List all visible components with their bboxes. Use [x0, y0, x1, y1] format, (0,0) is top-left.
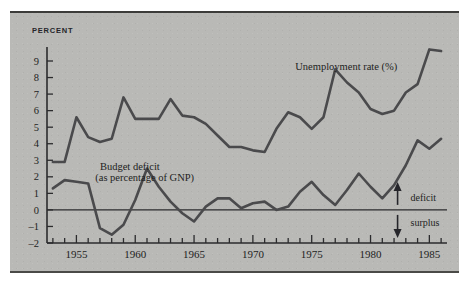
chart-plate: –2–10123456789 1955196019651970197519801… — [10, 11, 459, 273]
x-tick-label-1985: 1985 — [418, 248, 441, 260]
x-tick-label-1960: 1960 — [124, 248, 147, 260]
legend-label-surplus: surplus — [411, 217, 440, 228]
data-series-group — [53, 49, 441, 234]
y-tick-label-9: 9 — [34, 56, 39, 67]
annotation-budget-deficit-line2: (as percentage of GNP) — [95, 172, 194, 185]
y-tick-label-8: 8 — [34, 72, 39, 83]
y-axis-tick-labels: –2–10123456789 — [28, 56, 40, 249]
y-tick-label-4: 4 — [34, 138, 40, 149]
y-tick-label-6: 6 — [34, 105, 39, 116]
x-tick-label-1975: 1975 — [301, 248, 324, 260]
y-tick-label-3: 3 — [34, 155, 39, 166]
legend-label-deficit: deficit — [411, 192, 437, 203]
x-axis-tick-labels: 1955196019651970197519801985 — [65, 248, 440, 260]
surplus-down-arrow — [394, 215, 402, 238]
line-chart-plot: –2–10123456789 1955196019651970197519801… — [10, 11, 459, 273]
x-tick-label-1970: 1970 — [242, 248, 265, 260]
annotation-unemployment-rate: Unemployment rate (%) — [295, 61, 397, 74]
axes-group — [47, 47, 447, 243]
figure-container: –2–10123456789 1955196019651970197519801… — [0, 0, 469, 293]
y-tick-label-7: 7 — [34, 89, 39, 100]
x-tick-label-1965: 1965 — [183, 248, 206, 260]
y-axis-title: PERCENT — [32, 26, 73, 35]
y-tick-label--2: –2 — [28, 238, 40, 249]
y-tick-label-5: 5 — [34, 122, 39, 133]
y-tick-label--1: –1 — [28, 221, 40, 232]
x-tick-label-1955: 1955 — [65, 248, 88, 260]
y-tick-label-0: 0 — [34, 205, 39, 216]
series-budget-deficit — [53, 139, 441, 235]
y-tick-label-1: 1 — [34, 188, 39, 199]
x-tick-label-1980: 1980 — [360, 248, 383, 260]
y-tick-label-2: 2 — [34, 171, 39, 182]
